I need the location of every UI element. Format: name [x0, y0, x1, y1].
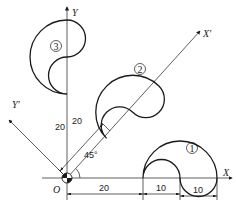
x-axis-label: X — [222, 167, 230, 178]
diagram-canvas: 3 2 1 Y X' Y' X O 45° 20 20 20 10 10 — [0, 0, 236, 200]
shape-label-1: 1 — [187, 143, 198, 154]
svg-text:1: 1 — [190, 143, 195, 154]
dim-x-offset: 20 — [99, 183, 109, 193]
origin-label: O — [53, 184, 60, 195]
y-prime-axis-label: Y' — [12, 99, 21, 110]
dim-y-offset: 20 — [55, 122, 65, 132]
shape-label-2: 2 — [135, 64, 146, 75]
svg-text:3: 3 — [54, 41, 59, 52]
y-axis-label: Y — [72, 7, 79, 18]
x-prime-axis-label: X' — [202, 28, 212, 39]
shape-label-3: 3 — [51, 41, 62, 52]
svg-text:2: 2 — [138, 64, 143, 75]
shape-2 — [80, 60, 172, 152]
dim-inner-width: 10 — [156, 183, 166, 193]
shape-3 — [30, 20, 85, 94]
angle-label: 45° — [84, 150, 98, 160]
angle-arc — [76, 169, 80, 178]
dim-xprime-offset: 20 — [72, 116, 82, 126]
dim-lobe-width: 10 — [193, 185, 203, 195]
